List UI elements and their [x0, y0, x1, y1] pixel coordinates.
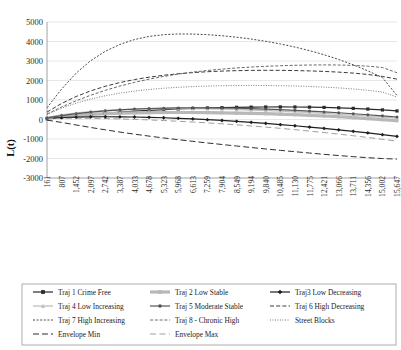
x-axis-tick-label: 13,711 — [349, 176, 358, 197]
series-marker — [279, 105, 282, 108]
series-marker — [235, 119, 239, 123]
legend-label[interactable]: Street Blocks — [295, 316, 335, 325]
series-marker — [395, 109, 398, 112]
legend-label[interactable]: Traj 5 Moderate Stable — [175, 302, 244, 311]
x-axis-tick-label: 14,356 — [364, 176, 373, 197]
legend-swatch-marker — [158, 290, 162, 294]
y-axis-tick-label: -1000 — [23, 134, 43, 144]
series-marker — [293, 105, 296, 108]
legend-label[interactable]: Traj 8 - Chronic High — [175, 316, 239, 325]
legend-label[interactable]: Envelope Min — [58, 330, 100, 339]
series-marker — [381, 133, 385, 137]
series-marker — [293, 113, 296, 116]
x-axis-tick-label: 161 — [43, 176, 52, 188]
legend-label[interactable]: Traj 6 High Decreasing — [295, 302, 365, 311]
series-marker — [235, 111, 238, 114]
legend-swatch-marker — [158, 304, 162, 308]
x-axis-tick-label: 3,387 — [116, 176, 125, 193]
x-axis-tick-label: 2,097 — [87, 176, 96, 193]
series-marker — [206, 106, 209, 109]
legend-label[interactable]: Traj 1 Crime Free — [58, 288, 112, 297]
y-axis-tick-label: 0 — [39, 115, 43, 125]
x-axis-tick-label: 9,840 — [262, 176, 271, 193]
series-marker — [147, 115, 151, 119]
series-marker — [381, 114, 384, 117]
y-axis-tick-label: 3000 — [26, 56, 43, 66]
trajectory-line-chart: 500040003000200010000-1000-2000-3000 161… — [0, 0, 401, 350]
series-marker — [366, 113, 369, 116]
series-marker — [118, 115, 122, 119]
x-axis-tick-labels: 1618071,4522,0972,7423,3874,0334,6785,32… — [43, 176, 401, 197]
series-marker — [308, 125, 312, 129]
series-marker — [75, 112, 78, 115]
legend-label[interactable]: Traj 7 High Increasing — [58, 316, 125, 325]
series-marker — [279, 108, 282, 111]
series-marker — [293, 124, 297, 128]
legend-label[interactable]: Envelope Max — [175, 330, 219, 339]
series-marker — [220, 119, 224, 123]
x-axis-tick-label: 9,194 — [247, 176, 256, 193]
series-marker — [147, 111, 150, 114]
series-marker — [337, 106, 340, 109]
series-line-9 — [47, 120, 397, 159]
x-axis-tick-label: 13,066 — [335, 176, 344, 197]
series-line-5 — [47, 70, 397, 112]
y-axis-tick-label: -3000 — [23, 173, 43, 183]
series-marker — [89, 111, 92, 114]
series-marker — [337, 128, 341, 132]
x-axis-tick-label: 1,452 — [72, 176, 81, 193]
y-axis-tick-label: 1000 — [26, 95, 43, 105]
series-marker — [191, 117, 195, 121]
series-marker — [366, 107, 369, 110]
legend-label[interactable]: Traj3 Low Decreasing — [295, 288, 362, 297]
chart-legend: Traj 1 Crime FreeTraj 2 Low StableTraj3 … — [33, 288, 365, 339]
series-marker — [278, 123, 282, 127]
series-marker — [250, 112, 253, 115]
series-marker — [351, 129, 355, 133]
x-axis-tick-label: 10,485 — [276, 176, 285, 197]
series-marker — [177, 111, 180, 114]
data-series-markers — [45, 105, 399, 138]
grid-lines — [47, 22, 397, 159]
series-marker — [104, 109, 107, 112]
series-marker — [264, 112, 267, 115]
legend-label[interactable]: Traj 2 Low Stable — [175, 288, 229, 297]
series-marker — [133, 115, 137, 119]
x-axis-tick-label: 11,775 — [306, 176, 315, 197]
series-marker — [148, 107, 151, 110]
series-marker — [133, 108, 136, 111]
x-axis-tick-label: 12,421 — [320, 176, 329, 197]
series-marker — [118, 108, 121, 111]
x-axis-tick-label: 807 — [58, 176, 67, 188]
x-axis-tick-label: 8,549 — [233, 176, 242, 193]
series-marker — [323, 110, 326, 113]
series-marker — [250, 107, 253, 110]
series-marker — [322, 126, 326, 130]
x-axis-tick-label: 15,002 — [378, 176, 387, 197]
x-axis-tick-label: 7,259 — [203, 176, 212, 193]
legend-label[interactable]: Traj 4 Low Increasing — [58, 302, 124, 311]
y-axis-tick-label: -2000 — [23, 154, 43, 164]
series-marker — [118, 112, 121, 115]
series-marker — [206, 111, 209, 114]
series-marker — [191, 111, 194, 114]
y-axis-tick-label: 2000 — [26, 76, 43, 86]
y-axis-tick-labels: 500040003000200010000-1000-2000-3000 — [23, 17, 43, 183]
legend-swatch-marker — [278, 290, 283, 295]
series-marker — [191, 106, 194, 109]
series-marker — [235, 107, 238, 110]
series-marker — [308, 110, 311, 113]
data-series-curves — [47, 34, 397, 159]
legend-swatch-marker — [41, 290, 45, 294]
series-marker — [396, 116, 399, 119]
series-marker — [322, 106, 325, 109]
x-axis-tick-label: 15,647 — [393, 176, 401, 197]
series-marker — [293, 109, 296, 112]
x-axis-tick-label: 7,904 — [218, 176, 227, 193]
series-marker — [177, 106, 180, 109]
series-marker — [220, 111, 223, 114]
x-axis-tick-label: 4,033 — [131, 176, 140, 193]
series-marker — [264, 108, 267, 111]
series-marker — [279, 113, 282, 116]
series-marker — [249, 120, 253, 124]
